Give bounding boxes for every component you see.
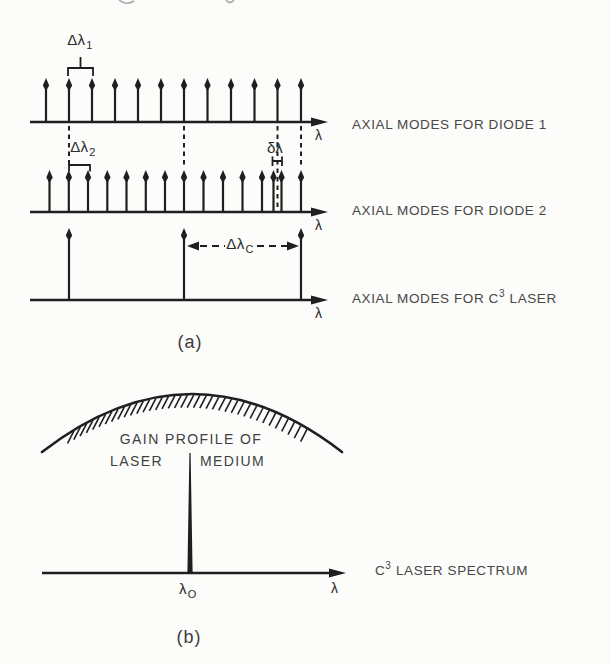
diode2-axis-mode-arrowhead	[270, 170, 276, 183]
gain-profile-hatch	[187, 395, 194, 408]
c3-axis-arrowhead	[311, 295, 328, 304]
delta-lambda-1-base: Δλ	[67, 31, 85, 48]
caption-a: (a)	[178, 332, 203, 353]
small-delta-lambda-label: δλ	[267, 139, 283, 156]
scan-artifact	[226, 0, 234, 3]
delta-lambda-2-label: Δλ2	[70, 138, 96, 158]
diode2-axis-mode-arrowhead	[123, 170, 129, 183]
diode2-axis-mode-arrowhead	[104, 170, 110, 183]
gain-profile-hatch	[263, 410, 270, 423]
delta-c-right-arrowhead	[287, 242, 299, 251]
diode2-axis-arrowhead	[311, 207, 328, 216]
c3-spectrum-label-post: LASER SPECTRUM	[396, 563, 528, 578]
delta-lambda-2-sub: 2	[89, 146, 95, 158]
measurement-bracket	[68, 57, 93, 76]
diode1-axis-mode-arrowhead	[181, 78, 187, 91]
c3-spectrum-label-pre: C	[375, 563, 385, 578]
gain-profile-hatch	[294, 426, 301, 439]
gain-profile-hatch	[200, 396, 207, 409]
delta-lambda-1-label: Δλ1	[67, 31, 93, 51]
c3-row-label-post: LASER	[510, 291, 557, 306]
diode1-axis-mode-arrowhead	[298, 78, 304, 91]
lambda0-sub: O	[188, 588, 197, 600]
diode1-axis-mode-arrowhead	[228, 78, 234, 91]
delta-lambda-2-base: Δλ	[70, 138, 88, 155]
diode1-row-label: AXIAL MODES FOR DIODE 1	[352, 117, 547, 132]
c3-spectrum-label-sup: 3	[385, 560, 391, 571]
lambda-symbol-diode1: λ	[315, 127, 322, 143]
gain-profile-line2-left: LASER	[110, 453, 163, 469]
gain-profile-hatch	[238, 402, 245, 415]
lambda0-base: λ	[179, 580, 187, 597]
diode1-axis-mode-arrowhead	[204, 78, 210, 91]
diode1-axis-mode-arrowhead	[66, 78, 72, 91]
diode2-axis-mode-arrowhead	[259, 170, 265, 183]
diode1-axis-mode-arrowhead	[158, 78, 164, 91]
delta-lambda-c-label: ΔλC	[226, 235, 253, 255]
caption-b: (b)	[177, 627, 202, 648]
diode1-axis-mode-arrowhead	[43, 78, 49, 91]
gain-profile-hatch	[194, 395, 201, 408]
gain-profile-line2-right: MEDIUM	[200, 453, 265, 469]
diode2-axis-mode-arrowhead	[143, 170, 149, 183]
gain-profile-hatch	[282, 419, 289, 432]
delta-c-left-arrowhead	[187, 242, 199, 251]
gain-profile-hatch	[257, 408, 264, 421]
gain-profile-hatch	[181, 395, 188, 408]
gain-profile-hatch	[219, 398, 226, 411]
gain-profile-hatch	[231, 400, 238, 413]
gain-profile-hatch	[175, 395, 182, 408]
diode1-axis-mode-arrowhead	[251, 78, 257, 91]
gain-profile-hatch	[168, 396, 175, 409]
measurement-bracket	[273, 157, 283, 167]
c3-axis-mode-arrowhead	[181, 228, 187, 241]
diode2-axis-mode-arrowhead	[181, 170, 187, 183]
diode2-axis-mode-arrowhead	[200, 170, 206, 183]
lambda-symbol-spectrum: λ	[331, 580, 338, 596]
diode2-axis-mode-arrowhead	[220, 170, 226, 183]
gain-profile-hatch	[206, 396, 213, 409]
spectrum-axis-arrowhead	[329, 568, 346, 577]
gain-profile-hatch	[143, 400, 150, 413]
gain-profile-hatch	[156, 397, 163, 410]
scan-artifact	[119, 0, 134, 3]
gain-profile-hatch	[288, 422, 295, 435]
gain-profile-hatch	[212, 397, 219, 410]
lambda0-label: λO	[179, 580, 197, 600]
diode2-axis-mode-arrowhead	[46, 170, 52, 183]
delta-lambda-c-sub: C	[245, 243, 253, 255]
diode2-axis-mode-arrowhead	[239, 170, 245, 183]
diode1-axis-arrowhead	[311, 117, 328, 126]
figure: Δλ1 Δλ2 δλ ΔλC AXIAL MODES FOR DIODE 1 A…	[0, 0, 610, 665]
laser-spike	[187, 453, 192, 573]
diode2-axis-mode-arrowhead	[298, 170, 304, 183]
delta-lambda-1-sub: 1	[86, 39, 92, 51]
c3-row-label-pre: AXIAL MODES FOR C	[352, 291, 499, 306]
lambda-symbol-c3: λ	[315, 305, 322, 321]
diode1-axis-mode-arrowhead	[89, 78, 95, 91]
lambda-symbol-diode2: λ	[315, 217, 322, 233]
delta-lambda-c-base: Δλ	[226, 235, 244, 252]
c3-axis-mode-arrowhead	[298, 228, 304, 241]
diode2-axis-mode-arrowhead	[66, 170, 72, 183]
measurement-bracket	[69, 165, 90, 172]
diode1-axis-mode-arrowhead	[135, 78, 141, 91]
gain-profile-hatch	[275, 416, 282, 429]
gain-profile-hatch	[149, 398, 156, 411]
gain-profile-hatch	[250, 406, 257, 419]
c3-axis-mode-arrowhead	[66, 228, 72, 241]
diode2-row-label: AXIAL MODES FOR DIODE 2	[352, 203, 547, 218]
c3-spectrum-label: C3LASER SPECTRUM	[375, 560, 528, 578]
gain-profile-hatch	[301, 429, 308, 442]
c3-row-label: AXIAL MODES FOR C3LASER	[352, 288, 557, 306]
gain-profile-line1: GAIN PROFILE OF	[120, 431, 262, 447]
diode2-axis-mode-arrowhead	[85, 170, 91, 183]
c3-row-label-sup: 3	[499, 288, 505, 299]
gain-profile-hatch	[225, 399, 232, 412]
gain-profile-hatch	[269, 413, 276, 426]
gain-profile-hatch	[162, 396, 169, 409]
diode2-axis-mode-arrowhead	[278, 170, 284, 183]
diode1-axis-mode-arrowhead	[112, 78, 118, 91]
diode2-axis-mode-arrowhead	[162, 170, 168, 183]
gain-profile-hatch	[244, 404, 251, 417]
